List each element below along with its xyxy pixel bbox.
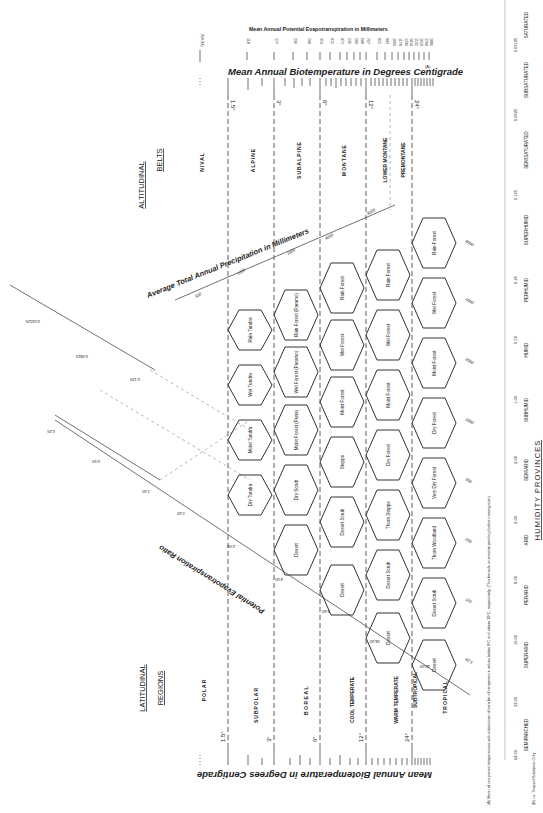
svg-text:Moist Forest: Moist Forest bbox=[432, 350, 437, 376]
svg-text:PERARID: PERARID bbox=[524, 584, 529, 605]
svg-text:589: 589 bbox=[354, 38, 358, 44]
svg-text:8.00: 8.00 bbox=[513, 575, 518, 584]
svg-text:Dry Forest: Dry Forest bbox=[386, 444, 391, 466]
svg-text:Moist Forest: Moist Forest bbox=[340, 389, 345, 415]
svg-text:4000: 4000 bbox=[465, 297, 476, 306]
svg-text:1060: 1060 bbox=[392, 38, 396, 46]
svg-text:Rain Tundra: Rain Tundra bbox=[248, 317, 253, 342]
svg-text:471: 471 bbox=[340, 38, 344, 44]
svg-text:2000: 2000 bbox=[464, 356, 476, 366]
svg-text:0.0625: 0.0625 bbox=[75, 354, 88, 359]
svg-text:236: 236 bbox=[293, 38, 297, 44]
svg-text:500: 500 bbox=[194, 291, 203, 299]
svg-text:Wet Forest (Paramo): Wet Forest (Paramo) bbox=[294, 350, 299, 393]
altitudinal-heading-1: ALTITUDINAL bbox=[137, 161, 146, 208]
svg-text:118: 118 bbox=[246, 38, 250, 44]
svg-text:1.00: 1.00 bbox=[141, 489, 150, 494]
belt-montane: MONTANE bbox=[341, 144, 347, 176]
diagonal-axes: Average Total Annual Precipitation in Mi… bbox=[10, 205, 470, 695]
svg-text:0.03125: 0.03125 bbox=[25, 319, 40, 324]
svg-text:353: 353 bbox=[319, 38, 323, 44]
footnote-a: (A) Mean of unit-period temperatures wit… bbox=[487, 495, 491, 805]
svg-text:0.50: 0.50 bbox=[91, 459, 100, 464]
svg-text:Desert Scrub: Desert Scrub bbox=[386, 561, 391, 588]
svg-text:6°: 6° bbox=[322, 100, 328, 106]
svg-text:1000: 1000 bbox=[236, 267, 247, 276]
svg-text:0.125: 0.125 bbox=[129, 377, 140, 382]
svg-text:Thorn Steppe: Thorn Steppe bbox=[386, 501, 391, 529]
svg-text:Very Dry Forest: Very Dry Forest bbox=[432, 466, 437, 499]
belt-alpine: ALPINE bbox=[250, 148, 256, 172]
hex-column-cool-temperate bbox=[320, 263, 364, 615]
svg-text:1.5°: 1.5° bbox=[220, 731, 226, 742]
svg-text:1768: 1768 bbox=[424, 38, 428, 46]
svg-text:Wet Tundra: Wet Tundra bbox=[248, 373, 253, 397]
svg-text:Wet Forest: Wet Forest bbox=[432, 291, 437, 314]
region-warm-temperate: WARM TEMPERATE bbox=[393, 675, 399, 723]
svg-text:Desert: Desert bbox=[340, 583, 345, 597]
svg-text:412: 412 bbox=[330, 38, 334, 44]
svg-text:Moist Forest: Moist Forest bbox=[386, 382, 391, 408]
svg-text:2.00: 2.00 bbox=[226, 544, 236, 549]
belt-lower-montane: LOWER MONTANE bbox=[382, 137, 388, 183]
svg-text:8000: 8000 bbox=[465, 239, 476, 248]
svg-text:Dry Tundra: Dry Tundra bbox=[248, 483, 253, 506]
svg-text:ARID: ARID bbox=[524, 534, 529, 546]
svg-text:12°: 12° bbox=[368, 100, 374, 110]
svg-text:Rain Forest: Rain Forest bbox=[386, 262, 391, 286]
svg-text:Desert Scrub: Desert Scrub bbox=[432, 589, 437, 616]
svg-text:648: 648 bbox=[360, 38, 364, 44]
svg-text:707: 707 bbox=[366, 38, 370, 44]
belt-nival: NIVAL bbox=[199, 152, 205, 172]
svg-text:HUMID: HUMID bbox=[524, 342, 529, 357]
svg-text:1.00: 1.00 bbox=[176, 511, 185, 516]
svg-text:3°: 3° bbox=[266, 736, 272, 742]
svg-text:PERHUMID: PERHUMID bbox=[524, 277, 529, 302]
svg-text:1886: 1886 bbox=[429, 38, 433, 46]
svg-text:0.0625: 0.0625 bbox=[513, 108, 518, 121]
svg-text:Desert: Desert bbox=[386, 631, 391, 645]
svg-text:Rain Forest: Rain Forest bbox=[340, 275, 345, 299]
svg-text:530: 530 bbox=[347, 38, 351, 44]
top-biotemp-scale: Mean Annual Biotemperature in Degrees Ce… bbox=[200, 64, 464, 95]
svg-text:24°: 24° bbox=[414, 100, 420, 110]
svg-text:Desert: Desert bbox=[294, 543, 299, 557]
svg-text:825: 825 bbox=[377, 38, 381, 44]
svg-text:1.00: 1.00 bbox=[513, 395, 518, 404]
svg-text:24°: 24° bbox=[404, 732, 410, 742]
svg-text:125: 125 bbox=[465, 597, 474, 605]
svg-text:4000: 4000 bbox=[324, 232, 335, 241]
svg-text:Dry Scrub: Dry Scrub bbox=[294, 479, 299, 500]
svg-text:SEMISATURATED: SEMISATURATED bbox=[524, 130, 529, 168]
belt-subalpine: SUBALPINE bbox=[296, 141, 302, 179]
svg-text:Moist Forest (Puna): Moist Forest (Puna) bbox=[294, 409, 299, 450]
svg-text:SATURATED: SATURATED bbox=[524, 11, 529, 38]
svg-text:0.25: 0.25 bbox=[46, 429, 55, 434]
pet-scale: Mean Annual Potential Evapotranspiration… bbox=[200, 26, 433, 62]
svg-text:6°: 6° bbox=[312, 736, 318, 742]
right-precip-labels: 8000 4000 2000 1000 500 250 125 62.5 bbox=[464, 239, 476, 666]
biotemp-axis-title-bottom: Mean Annual Biotemperature in Degrees Ce… bbox=[196, 770, 432, 781]
svg-text:Desert: Desert bbox=[432, 658, 437, 672]
bottom-temperature-marks: 1.5° 3° 6° 12° 24° bbox=[220, 731, 410, 742]
holdridge-life-zone-diagram: Mean Annual Biotemperature in Degrees Ce… bbox=[0, 0, 543, 813]
svg-text:Wet Forest: Wet Forest bbox=[340, 333, 345, 356]
svg-text:SUBHUMID: SUBHUMID bbox=[524, 397, 529, 422]
hex-column-tropical bbox=[412, 218, 456, 690]
svg-text:Moist Tundra: Moist Tundra bbox=[248, 426, 253, 453]
svg-text:250: 250 bbox=[464, 536, 474, 545]
svg-text:0.125: 0.125 bbox=[513, 189, 518, 200]
svg-text:Dry Forest: Dry Forest bbox=[432, 412, 437, 434]
precip-tick-labels: 500 1000 2000 4000 8000 bbox=[194, 207, 377, 299]
svg-text:Desert Scrub: Desert Scrub bbox=[340, 508, 345, 535]
svg-text:3°: 3° bbox=[276, 100, 282, 106]
svg-text:Rain Forest: Rain Forest bbox=[432, 230, 437, 254]
svg-text:1178: 1178 bbox=[398, 38, 402, 46]
humidity-provinces-heading: HUMIDITY PROVINCES bbox=[533, 440, 542, 540]
svg-text:1.5°: 1.5° bbox=[230, 100, 236, 111]
svg-text:Steppe: Steppe bbox=[340, 454, 345, 469]
svg-text:1296: 1296 bbox=[404, 38, 408, 46]
belt-premontane: PREMONTANE bbox=[400, 142, 406, 178]
region-boreal: BOREAL bbox=[303, 685, 309, 715]
svg-text:SUBSATURATED: SUBSATURATED bbox=[524, 61, 529, 98]
